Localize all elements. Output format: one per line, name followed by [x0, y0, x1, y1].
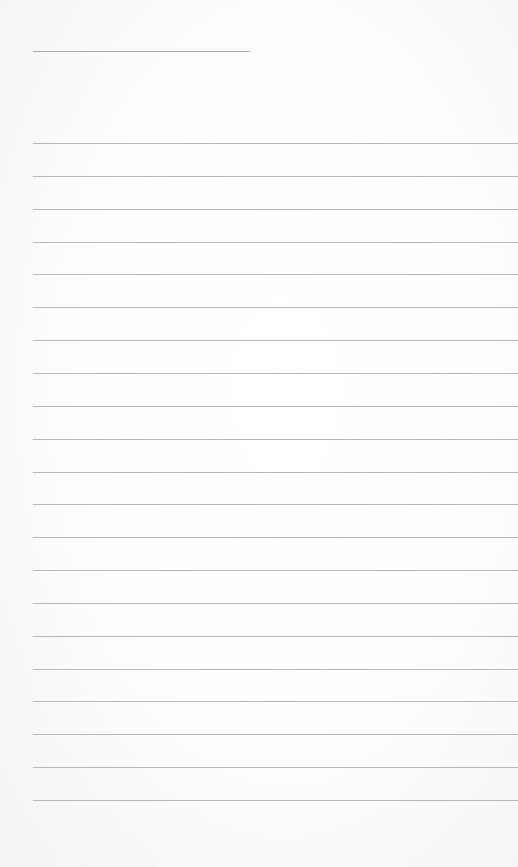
ruled-line: [33, 701, 518, 702]
ruled-line: [33, 669, 518, 670]
ruled-line: [33, 242, 518, 243]
ruled-line: [33, 209, 518, 210]
ruled-line: [33, 340, 518, 341]
ruled-line: [33, 504, 518, 505]
ruled-line: [33, 373, 518, 374]
lined-page: [0, 0, 518, 867]
ruled-line: [33, 570, 518, 571]
ruled-line: [33, 143, 518, 144]
ruled-lines: [33, 0, 518, 867]
ruled-line: [33, 800, 518, 801]
ruled-line: [33, 636, 518, 637]
ruled-line: [33, 176, 518, 177]
ruled-line: [33, 603, 518, 604]
ruled-line: [33, 537, 518, 538]
ruled-line: [33, 307, 518, 308]
ruled-line: [33, 472, 518, 473]
ruled-line: [33, 439, 518, 440]
ruled-line: [33, 274, 518, 275]
ruled-line: [33, 734, 518, 735]
ruled-line: [33, 406, 518, 407]
ruled-line: [33, 767, 518, 768]
